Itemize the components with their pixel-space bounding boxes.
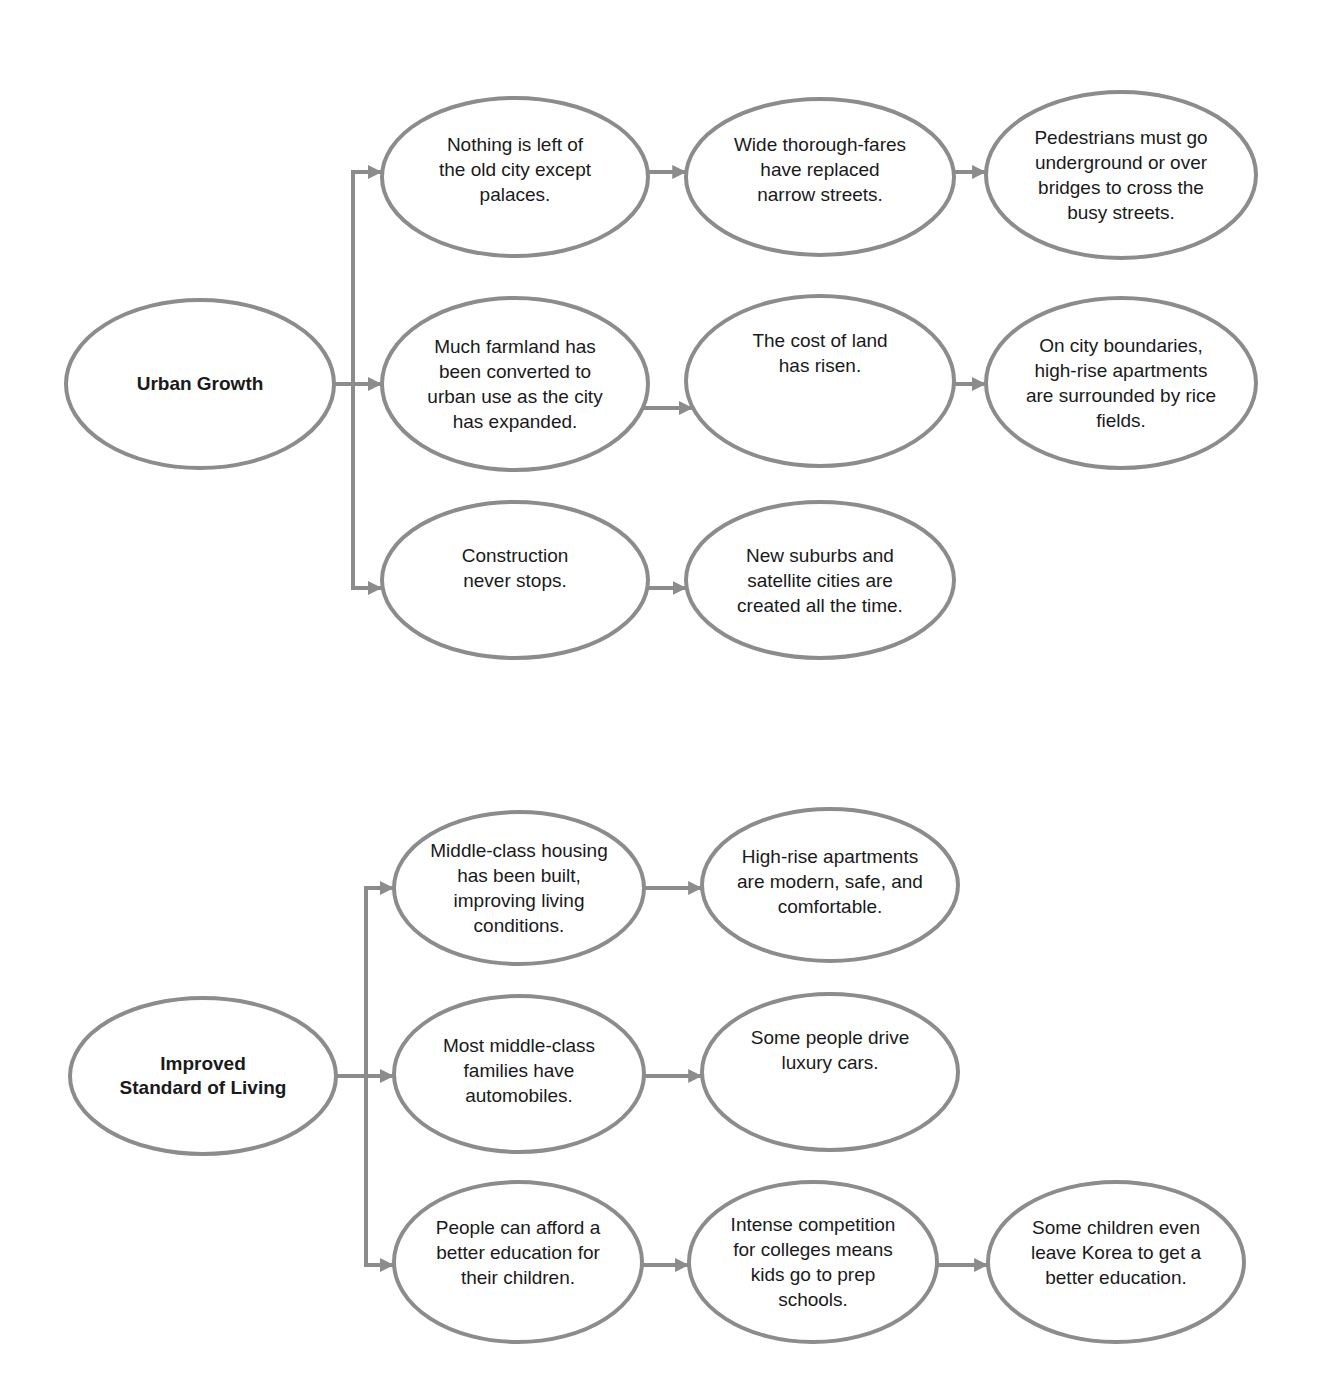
text-line: has been built, <box>430 863 607 888</box>
node-s2-r1-c2-text: High-rise apartmentsare modern, safe, an… <box>737 844 923 919</box>
text-line: The cost of land <box>752 328 887 353</box>
text-line: automobiles. <box>443 1083 595 1108</box>
node-s1-r2-c1-text: Much farmland hasbeen converted tourban … <box>427 334 602 434</box>
node-s1-r1-c3: Pedestrians must gounderground or overbr… <box>996 92 1246 258</box>
node-s1-r2-c3-text: On city boundaries,high-rise apartmentsa… <box>1026 333 1216 433</box>
text-line: improving living <box>430 888 607 913</box>
text-line: palaces. <box>439 182 591 207</box>
node-s1-r1-c1: Nothing is left ofthe old city exceptpal… <box>392 90 638 248</box>
node-s2-r3-c3: Some children evenleave Korea to get abe… <box>998 1172 1234 1332</box>
text-line: Standard of Living <box>120 1076 287 1100</box>
text-line: schools. <box>731 1287 896 1312</box>
text-line: fields. <box>1026 408 1216 433</box>
node-s1-r1-c3-text: Pedestrians must gounderground or overbr… <box>1034 125 1207 225</box>
text-line: Construction <box>462 543 569 568</box>
text-line: better education. <box>1031 1265 1201 1290</box>
text-line: Wide thorough-fares <box>734 132 906 157</box>
node-s1-r1-c1-text: Nothing is left ofthe old city exceptpal… <box>439 132 591 207</box>
text-line: underground or over <box>1034 150 1207 175</box>
node-s1-r2-c3: On city boundaries,high-rise apartmentsa… <box>996 298 1246 468</box>
text-line: high-rise apartments <box>1026 358 1216 383</box>
text-line: has risen. <box>752 353 887 378</box>
text-line: narrow streets. <box>734 182 906 207</box>
node-s1-r3-c2: New suburbs andsatellite cities arecreat… <box>696 502 944 658</box>
text-line: urban use as the city <box>427 384 602 409</box>
text-line: Much farmland has <box>427 334 602 359</box>
node-s2-r2-c1-text: Most middle-classfamilies haveautomobile… <box>443 1033 595 1108</box>
text-line: luxury cars. <box>751 1050 909 1075</box>
node-s2-r3-c1-text: People can afford abetter education fort… <box>436 1215 600 1290</box>
node-s1-r3-c2-text: New suburbs andsatellite cities arecreat… <box>737 543 903 618</box>
text-line: created all the time. <box>737 593 903 618</box>
node-s2-r2-c2-text: Some people driveluxury cars. <box>751 1025 909 1075</box>
text-line: have replaced <box>734 157 906 182</box>
root-node-2-text: ImprovedStandard of Living <box>120 1052 287 1100</box>
node-s1-r3-c1-text: Constructionnever stops. <box>462 543 569 593</box>
text-line: leave Korea to get a <box>1031 1240 1201 1265</box>
node-s1-r2-c2-text: The cost of landhas risen. <box>752 328 887 378</box>
ellipse-shapes <box>66 92 1256 1342</box>
text-line: Urban Growth <box>137 372 264 396</box>
text-line: Improved <box>120 1052 287 1076</box>
root-node-1: Urban Growth <box>76 300 324 468</box>
text-line: for colleges means <box>731 1237 896 1262</box>
text-line: Most middle-class <box>443 1033 595 1058</box>
node-s2-r1-c1: Middle-class housinghas been built,impro… <box>404 812 634 964</box>
text-line: better education for <box>436 1240 600 1265</box>
text-line: On city boundaries, <box>1026 333 1216 358</box>
text-line: their children. <box>436 1265 600 1290</box>
root-node-1-text: Urban Growth <box>137 372 264 396</box>
node-s1-r3-c1: Constructionnever stops. <box>392 490 638 646</box>
node-s2-r1-c1-text: Middle-class housinghas been built,impro… <box>430 838 607 938</box>
node-s2-r3-c1: People can afford abetter education fort… <box>404 1172 632 1332</box>
text-line: kids go to prep <box>731 1262 896 1287</box>
text-line: has expanded. <box>427 409 602 434</box>
text-line: Intense competition <box>731 1212 896 1237</box>
node-s1-r2-c2: The cost of landhas risen. <box>696 268 944 438</box>
root-node-2: ImprovedStandard of Living <box>80 998 326 1154</box>
node-s1-r1-c2-text: Wide thorough-fareshave replacednarrow s… <box>734 132 906 207</box>
text-line: are modern, safe, and <box>737 869 923 894</box>
node-s2-r3-c2-text: Intense competitionfor colleges meanskid… <box>731 1212 896 1312</box>
node-s1-r1-c2: Wide thorough-fareshave replacednarrow s… <box>696 91 944 247</box>
text-line: busy streets. <box>1034 200 1207 225</box>
text-line: never stops. <box>462 568 569 593</box>
text-line: Some people drive <box>751 1025 909 1050</box>
text-line: been converted to <box>427 359 602 384</box>
node-s2-r1-c2: High-rise apartmentsare modern, safe, an… <box>712 805 948 957</box>
text-line: Some children even <box>1031 1215 1201 1240</box>
node-s1-r2-c1: Much farmland hasbeen converted tourban … <box>392 298 638 470</box>
node-s2-r3-c2: Intense competitionfor colleges meanskid… <box>699 1182 927 1342</box>
text-line: conditions. <box>430 913 607 938</box>
text-line: Pedestrians must go <box>1034 125 1207 150</box>
text-line: New suburbs and <box>737 543 903 568</box>
text-line: satellite cities are <box>737 568 903 593</box>
text-line: the old city except <box>439 157 591 182</box>
text-line: families have <box>443 1058 595 1083</box>
text-line: People can afford a <box>436 1215 600 1240</box>
node-s2-r2-c1: Most middle-classfamilies haveautomobile… <box>404 992 634 1148</box>
text-line: High-rise apartments <box>737 844 923 869</box>
node-s2-r2-c2: Some people driveluxury cars. <box>712 972 948 1128</box>
text-line: comfortable. <box>737 894 923 919</box>
text-line: Nothing is left of <box>439 132 591 157</box>
text-line: Middle-class housing <box>430 838 607 863</box>
text-line: bridges to cross the <box>1034 175 1207 200</box>
node-s2-r3-c3-text: Some children evenleave Korea to get abe… <box>1031 1215 1201 1290</box>
text-line: are surrounded by rice <box>1026 383 1216 408</box>
